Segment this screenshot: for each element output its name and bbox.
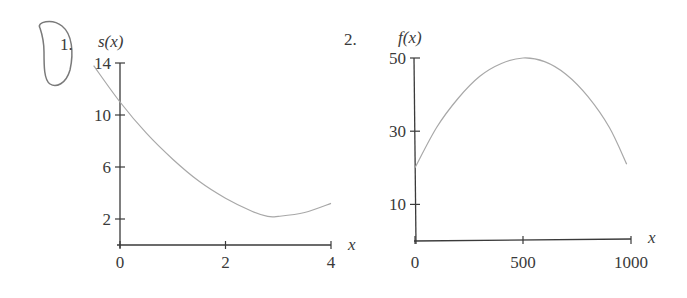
x-tick-label: 0 [116, 253, 125, 272]
y-tick-label: 6 [103, 158, 112, 177]
x-tick-label: 4 [327, 253, 336, 272]
y-axis-label-1: s(x) [98, 32, 124, 51]
problem-number-2: 2. [344, 30, 357, 49]
y-tick-label: 10 [389, 195, 406, 214]
y-tick-label: 50 [389, 49, 406, 68]
y-tick-label: 10 [94, 106, 111, 125]
x-axis-label-2: x [647, 228, 656, 247]
x-axis-label-1: x [347, 235, 356, 254]
chart-2: 2. f(x) x 05001000103050 [344, 28, 656, 272]
curve-f [415, 58, 627, 168]
ticks-1: 024261014 [94, 54, 336, 272]
x-tick-label: 1000 [614, 253, 648, 272]
x-tick-label: 0 [411, 253, 420, 272]
curve-s [94, 66, 331, 217]
chart-1: 1. s(x) x 024261014 [39, 22, 356, 272]
y-axis-2 [414, 58, 416, 244]
problem-number-1: 1. [60, 35, 73, 54]
y-tick-label: 2 [103, 210, 112, 229]
y-axis-label-2: f(x) [398, 28, 422, 47]
x-tick-label: 500 [510, 253, 536, 272]
x-tick-label: 2 [221, 253, 230, 272]
y-tick-label: 30 [389, 122, 406, 141]
ticks-2: 05001000103050 [389, 49, 648, 272]
figure: 1. s(x) x 024261014 2. f(x) x 0500100010… [0, 0, 687, 298]
